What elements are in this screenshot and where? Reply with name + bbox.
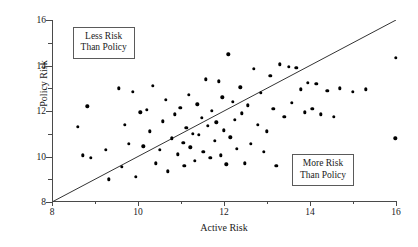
scatter-point (158, 148, 161, 151)
scatter-point (259, 91, 262, 94)
x-tick-label: 12 (219, 207, 229, 217)
scatter-point (319, 113, 322, 116)
scatter-point (120, 165, 123, 168)
scatter-point (86, 105, 89, 108)
scatter-point (213, 139, 216, 142)
annotation-less-risk-line2: Than Policy (81, 42, 127, 54)
scatter-point (306, 81, 309, 84)
scatter-point (189, 146, 192, 149)
scatter-point (141, 145, 144, 148)
scatter-point (240, 112, 243, 115)
y-tick-major (46, 111, 52, 112)
scatter-point (178, 106, 181, 109)
y-tick-label: 10 (37, 152, 47, 162)
annotation-more-risk-line2: Than Policy (300, 170, 346, 182)
scatter-point (275, 164, 278, 167)
scatter-point (246, 104, 249, 107)
scatter-point (217, 80, 220, 83)
scatter-point (176, 153, 179, 156)
scatter-point (235, 147, 238, 150)
scatter-point (393, 137, 396, 140)
x-tick-major (396, 201, 397, 206)
annotation-less-risk-line1: Less Risk (81, 31, 127, 43)
scatter-point (394, 56, 397, 59)
scatter-point (219, 154, 222, 157)
y-axis-title: Policy Risk (38, 29, 49, 139)
annotation-less-risk: Less Risk Than Policy (73, 27, 135, 59)
scatter-point (222, 129, 225, 132)
scatter-point (183, 164, 186, 167)
x-tick-label: 16 (391, 207, 401, 217)
scatter-point (295, 66, 298, 69)
scatter-point (76, 125, 79, 128)
y-tick-minor (48, 179, 52, 180)
scatter-point (200, 116, 203, 119)
scatter-point (310, 107, 313, 110)
scatter-point (364, 88, 367, 91)
scatter-point (243, 162, 246, 165)
scatter-point (265, 130, 268, 133)
x-tick-label: 14 (305, 207, 315, 217)
y-tick-label: 16 (37, 15, 47, 25)
scatter-point (249, 142, 252, 145)
scatter-point (134, 175, 137, 178)
scatter-point (202, 150, 205, 153)
scatter-point (210, 109, 213, 112)
scatter-point (233, 118, 236, 121)
y-tick-minor (48, 88, 52, 89)
scatter-point (206, 124, 209, 127)
scatter-point (287, 65, 290, 68)
scatter-point (262, 150, 265, 153)
scatter-point (154, 162, 157, 165)
scatter-point (256, 123, 259, 126)
scatter-point (89, 156, 92, 159)
scatter-point (191, 132, 194, 135)
scatter-point (131, 90, 134, 93)
scatter-point (193, 159, 196, 162)
scatter-point (181, 141, 184, 144)
scatter-point (299, 88, 302, 91)
scatter-point (107, 178, 110, 181)
scatter-point (196, 102, 199, 105)
scatter-point (325, 89, 328, 92)
scatter-point (290, 101, 293, 104)
scatter-point (231, 100, 234, 103)
scatter-point (227, 52, 230, 55)
scatter-point (123, 123, 126, 126)
scatter-point (148, 130, 151, 133)
scatter-point (197, 133, 200, 136)
annotation-more-risk: More Risk Than Policy (292, 154, 354, 186)
scatter-point (166, 170, 169, 173)
scatter-point (239, 85, 242, 88)
scatter-point (81, 154, 84, 157)
scatter-point (278, 63, 281, 66)
scatter-point (338, 87, 341, 90)
scatter-point (184, 126, 187, 129)
scatter-point (252, 67, 255, 70)
scatter-point (351, 90, 354, 93)
scatter-point (269, 74, 272, 77)
scatter-point (173, 113, 176, 116)
scatter-point (332, 115, 335, 118)
y-tick-minor (48, 134, 52, 135)
scatter-point (303, 110, 306, 113)
scatter-point (145, 108, 148, 111)
scatter-point (204, 77, 207, 80)
y-tick-major (46, 20, 52, 21)
scatter-point (221, 96, 224, 99)
scatter-point (138, 110, 141, 113)
scatter-point (209, 156, 212, 159)
x-tick-label: 8 (50, 207, 55, 217)
scatter-point (229, 135, 232, 138)
scatter-point (164, 98, 167, 101)
scatter-point (282, 115, 285, 118)
scatter-point (315, 82, 318, 85)
y-tick-major (46, 66, 52, 67)
annotation-more-risk-line1: More Risk (300, 158, 346, 170)
y-tick-major (46, 157, 52, 158)
scatter-point (161, 120, 164, 123)
scatter-point (117, 87, 120, 90)
scatter-point (104, 148, 107, 151)
scatter-point (127, 142, 130, 145)
scatter-point (187, 93, 190, 96)
